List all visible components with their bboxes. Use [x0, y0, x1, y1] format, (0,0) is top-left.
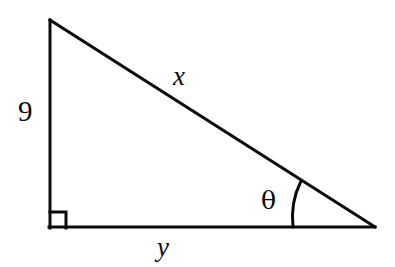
- triangle-diagram-svg: [0, 0, 395, 267]
- angle-label-theta: θ: [261, 188, 276, 213]
- triangle-side-hypotenuse: [50, 20, 375, 227]
- angle-arc-icon: [292, 181, 301, 227]
- side-label-hypotenuse: x: [173, 63, 185, 90]
- side-label-vertical-leg: 9: [18, 97, 33, 126]
- side-label-horizontal-leg: y: [157, 234, 169, 261]
- triangle-figure: 9 x y θ: [0, 0, 395, 267]
